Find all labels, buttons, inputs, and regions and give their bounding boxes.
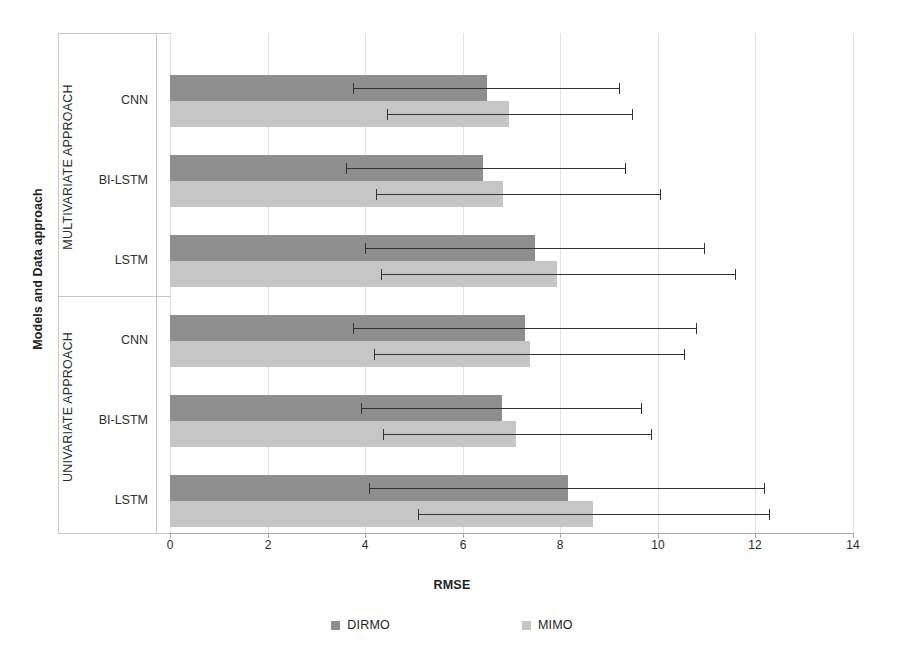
category-label-mv-lstm: LSTM bbox=[68, 253, 148, 267]
x-tick-label-12: 12 bbox=[735, 538, 775, 552]
frame-bottom-outer bbox=[58, 533, 170, 534]
group-label-univariate: UNIVARIATE APPROACH bbox=[61, 287, 75, 527]
errorbar-mimo-mv-bilstm bbox=[376, 189, 661, 200]
legend-swatch-dirmo-icon bbox=[331, 621, 340, 630]
errorbar-mimo-uv-cnn bbox=[374, 349, 685, 360]
errorbar-dirmo-uv-bilstm bbox=[361, 403, 642, 414]
errorbar-dirmo-uv-cnn bbox=[353, 323, 697, 334]
category-label-mv-bilstm: BI-LSTM bbox=[68, 173, 148, 187]
errorbar-mimo-mv-cnn bbox=[387, 109, 633, 120]
errorbar-mimo-mv-lstm bbox=[381, 269, 736, 280]
gridline-10 bbox=[658, 33, 659, 533]
chart-container: Models and Data approach MULTIVARIATE AP… bbox=[0, 0, 904, 662]
legend-label-dirmo: DIRMO bbox=[347, 618, 390, 632]
legend-label-mimo: MIMO bbox=[538, 618, 573, 632]
errorbar-dirmo-mv-bilstm bbox=[346, 163, 626, 174]
x-tick-label-0: 0 bbox=[150, 538, 190, 552]
x-tick-label-14: 14 bbox=[833, 538, 873, 552]
frame-group-divider-outer bbox=[58, 296, 170, 297]
frame-top bbox=[58, 33, 170, 34]
x-tick-label-6: 6 bbox=[443, 538, 483, 552]
legend-item-dirmo: DIRMO bbox=[331, 618, 390, 632]
gridline-14 bbox=[853, 33, 854, 533]
errorbar-mimo-uv-lstm bbox=[418, 509, 770, 520]
y-axis-title: Models and Data approach bbox=[31, 169, 45, 369]
frame-inner-vertical bbox=[156, 33, 157, 534]
x-axis-title: RMSE bbox=[0, 578, 904, 592]
x-tick-label-4: 4 bbox=[345, 538, 385, 552]
errorbar-mimo-uv-bilstm bbox=[383, 429, 652, 440]
category-label-uv-lstm: LSTM bbox=[68, 493, 148, 507]
chart-legend: DIRMO MIMO bbox=[0, 618, 904, 632]
gridline-12 bbox=[755, 33, 756, 533]
legend-swatch-mimo-icon bbox=[522, 621, 531, 630]
errorbar-dirmo-mv-lstm bbox=[365, 243, 705, 254]
x-axis-line bbox=[170, 533, 854, 534]
errorbar-dirmo-mv-cnn bbox=[353, 83, 620, 94]
category-label-uv-bilstm: BI-LSTM bbox=[68, 413, 148, 427]
errorbar-dirmo-uv-lstm bbox=[369, 483, 765, 494]
x-tick-label-2: 2 bbox=[248, 538, 288, 552]
category-label-uv-cnn: CNN bbox=[68, 333, 148, 347]
category-label-mv-cnn: CNN bbox=[68, 93, 148, 107]
x-tick-label-8: 8 bbox=[540, 538, 580, 552]
group-label-multivariate: MULTIVARIATE APPROACH bbox=[61, 47, 75, 287]
gridline-8 bbox=[560, 33, 561, 533]
frame-left-outer bbox=[58, 33, 59, 534]
legend-item-mimo: MIMO bbox=[522, 618, 573, 632]
x-tick-label-10: 10 bbox=[638, 538, 678, 552]
